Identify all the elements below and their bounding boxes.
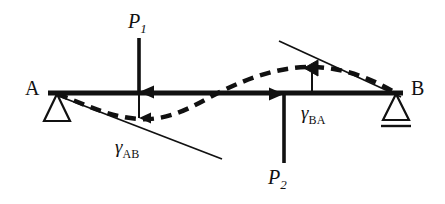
gamma-ab-subscript: AB: [123, 147, 140, 161]
load-p1-subscript: 1: [140, 21, 147, 36]
angle-gamma-ab-label: γAB: [115, 137, 140, 160]
gamma-ba-subscript: BA: [309, 113, 326, 127]
beam-deflection-figure: A B P1 P2 γAB γBA: [0, 0, 445, 204]
support-b: [381, 94, 411, 126]
load-p2-subscript: 2: [280, 177, 287, 192]
support-a-label: A: [25, 78, 39, 98]
load-p1-symbol: P: [128, 10, 140, 32]
support-b-label: B: [411, 78, 424, 98]
gamma-ba-symbol: γ: [301, 102, 309, 123]
gamma-ab-symbol: γ: [115, 136, 123, 157]
load-p2-symbol: P: [268, 166, 280, 188]
load-p2-label: P2: [268, 167, 287, 191]
angle-gamma-ba-label: γBA: [301, 103, 326, 126]
support-b-triangle: [383, 94, 409, 120]
figure-canvas: [0, 0, 445, 204]
load-p1-label: P1: [128, 11, 147, 35]
